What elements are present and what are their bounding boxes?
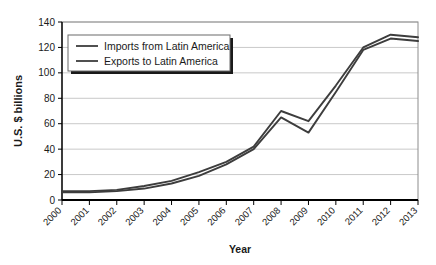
line-chart: 020406080100120140 200020012002200320042… [0,0,436,265]
chart-legend: Imports from Latin America Exports to La… [68,35,233,74]
chart-container: 020406080100120140 200020012002200320042… [0,0,436,265]
legend-label-exports: Exports to Latin America [104,55,218,67]
y-tick-label-60: 60 [44,118,56,129]
y-tick-label-120: 120 [38,42,55,53]
y-tick-label-140: 140 [38,17,55,28]
y-tick-label-100: 100 [38,67,55,78]
y-tick-label-20: 20 [44,169,56,180]
x-axis-title: Year [229,243,251,255]
legend-label-imports: Imports from Latin America [104,40,230,52]
y-axis-title: U.S. $ billions [12,75,24,147]
y-tick-label-0: 0 [49,195,55,206]
y-tick-label-80: 80 [44,93,56,104]
y-tick-label-40: 40 [44,144,56,155]
